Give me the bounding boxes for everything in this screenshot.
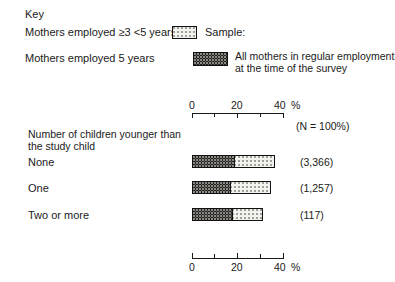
top-axis-tick-0 xyxy=(192,113,193,118)
top-axis-tick-30 xyxy=(260,113,261,117)
bar-segment-employed-3-to-5-years-two-or-more xyxy=(232,209,262,220)
group-heading: Number of children younger than the stud… xyxy=(28,129,188,152)
bottom-axis-tick-40 xyxy=(283,253,284,258)
bar-divider-none xyxy=(234,156,235,167)
bar-divider-two-or-more xyxy=(232,209,233,220)
top-axis-tick-40 xyxy=(283,113,284,118)
bottom-axis-tick-30 xyxy=(260,254,261,258)
bar-segment-employed-3-to-5-years-one xyxy=(230,182,270,193)
legend-item-label-2: Mothers employed 5 years xyxy=(25,52,155,64)
legend-item-label-1: Mothers employed ≥3 <5 years xyxy=(25,26,176,38)
bar-outline-none xyxy=(192,155,275,168)
bottom-axis-tick-0 xyxy=(192,253,193,258)
top-axis-label-20: 20 xyxy=(231,99,243,111)
top-axis-label-0: 0 xyxy=(189,99,195,111)
top-axis-label-40: 40 xyxy=(274,99,286,111)
n-equals-100-note: (N = 100%) xyxy=(296,120,349,132)
bottom-axis-label-0: 0 xyxy=(189,261,195,273)
dark-stipple-swatch-icon xyxy=(193,52,228,66)
top-axis-tick-20 xyxy=(237,113,238,118)
category-label-two-or-more: Two or more xyxy=(28,209,89,221)
bar-segment-employed-3-to-5-years-none xyxy=(234,156,274,167)
bottom-axis-label-40: 40 xyxy=(274,261,286,273)
sample-description: All mothers in regular employment at the… xyxy=(235,51,395,74)
bottom-axis-tick-10 xyxy=(214,254,215,258)
sample-size-two-or-more: (117) xyxy=(300,209,324,221)
sample-label: Sample: xyxy=(205,26,245,38)
chart-figure: Key Mothers employed ≥3 <5 years Mothers… xyxy=(0,0,395,282)
bar-segment-employed-5-years-none xyxy=(193,156,234,167)
top-axis-unit: % xyxy=(291,99,300,111)
bar-segment-employed-5-years-one xyxy=(193,182,230,193)
category-label-none: None xyxy=(28,156,54,168)
bottom-axis-label-20: 20 xyxy=(231,261,243,273)
bottom-axis-tick-20 xyxy=(237,253,238,258)
bar-divider-one xyxy=(230,182,231,193)
top-axis-tick-10 xyxy=(214,113,215,117)
light-stipple-swatch-icon xyxy=(172,26,197,39)
bottom-axis-unit: % xyxy=(291,261,300,273)
bottom-axis-line xyxy=(192,258,284,259)
bar-segment-employed-5-years-two-or-more xyxy=(193,209,232,220)
sample-size-one: (1,257) xyxy=(300,182,333,194)
sample-size-none: (3,366) xyxy=(300,156,333,168)
bar-outline-one xyxy=(192,181,271,194)
category-label-one: One xyxy=(28,182,49,194)
key-title: Key xyxy=(25,8,44,20)
bar-outline-two-or-more xyxy=(192,208,263,221)
